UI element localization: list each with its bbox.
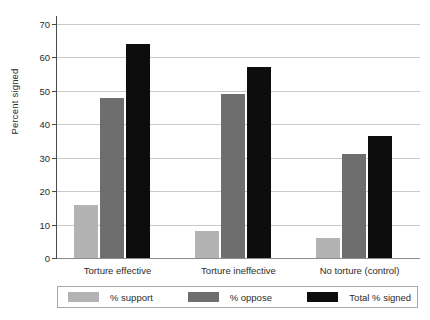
bar [247,67,271,258]
chart-legend: % support% opposeTotal % signed [57,286,418,308]
plot-area: 706050403020100 Torture effectiveTorture… [57,24,420,258]
legend-item: % oppose [178,292,298,303]
y-axis-tick-label: 70 [39,19,50,30]
legend-color-swatch [68,292,99,302]
y-axis-tick-mark [52,258,57,259]
bar [195,231,219,258]
y-axis-tick-label: 40 [39,119,50,130]
y-axis-tick-label: 10 [39,219,50,230]
bar-chart-figure: Percent signed 706050403020100 Torture e… [0,0,430,320]
bar [221,94,245,258]
bar-group: No torture (control) [299,24,420,258]
legend-item: % support [58,292,178,303]
y-axis-title: Percent signed [9,47,20,157]
legend-label: Total % signed [349,292,411,303]
legend-item: Total % signed [297,292,417,303]
x-axis-category-label: No torture (control) [320,265,400,276]
x-axis-category-label: Torture effective [84,265,151,276]
legend-label: % support [110,292,153,303]
bar [316,238,340,258]
bar-group: Torture ineffective [178,24,299,258]
bar [74,205,98,258]
bar [126,44,150,258]
y-axis-tick-label: 0 [45,253,50,264]
x-axis-category-label: Torture ineffective [201,265,276,276]
legend-color-swatch [307,292,338,302]
y-axis-tick-label: 30 [39,152,50,163]
bar [100,98,124,258]
bar-group: Torture effective [57,24,178,258]
legend-label: % oppose [230,292,272,303]
y-axis-tick-label: 50 [39,85,50,96]
y-axis-tick-label: 60 [39,52,50,63]
y-axis-tick-label: 20 [39,186,50,197]
bar [342,154,366,258]
legend-color-swatch [188,292,219,302]
bar [368,136,392,258]
